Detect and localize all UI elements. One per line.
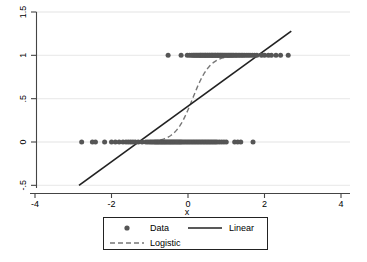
y-axis-ticks: -.50.511.5 — [18, 6, 36, 191]
y-tick-label-1.5: 1.5 — [18, 6, 28, 19]
data-point-y1 — [286, 53, 291, 58]
y-tick-label-1: 1 — [18, 53, 28, 58]
data-point-y1 — [254, 53, 259, 58]
x-axis-title: x — [185, 207, 190, 217]
gridlines — [37, 12, 350, 185]
legend-label-logistic: Logistic — [150, 238, 181, 248]
data-point-y0 — [102, 140, 107, 145]
data-point-y1 — [166, 53, 171, 58]
data-point-y1 — [179, 53, 184, 58]
scatter-plot-with-fits: -.50.511.5 -4-2024 x Data Linear Logisti… — [0, 0, 367, 262]
y-tick-label-0: 0 — [18, 139, 28, 144]
data-point-y0 — [79, 140, 84, 145]
x-tick-label-2: 2 — [262, 199, 267, 209]
legend-marker-data-icon — [124, 225, 129, 230]
y-tick-label-.5: .5 — [18, 95, 28, 103]
legend: Data Linear Logistic — [104, 218, 268, 250]
data-point-y0 — [238, 140, 243, 145]
chart-container: -.50.511.5 -4-2024 x Data Linear Logisti… — [0, 0, 367, 262]
x-tick-label--4: -4 — [31, 199, 39, 209]
y-tick-label--.5: -.5 — [18, 180, 28, 191]
x-tick-label--2: -2 — [107, 199, 115, 209]
legend-label-data: Data — [150, 223, 169, 233]
data-point-y0 — [93, 140, 98, 145]
data-point-y0 — [251, 140, 256, 145]
legend-label-linear: Linear — [229, 223, 254, 233]
data-point-y1 — [269, 53, 274, 58]
data-point-y1 — [273, 53, 278, 58]
data-point-y1 — [278, 53, 283, 58]
data-point-y0 — [224, 140, 229, 145]
x-tick-label-4: 4 — [338, 199, 343, 209]
